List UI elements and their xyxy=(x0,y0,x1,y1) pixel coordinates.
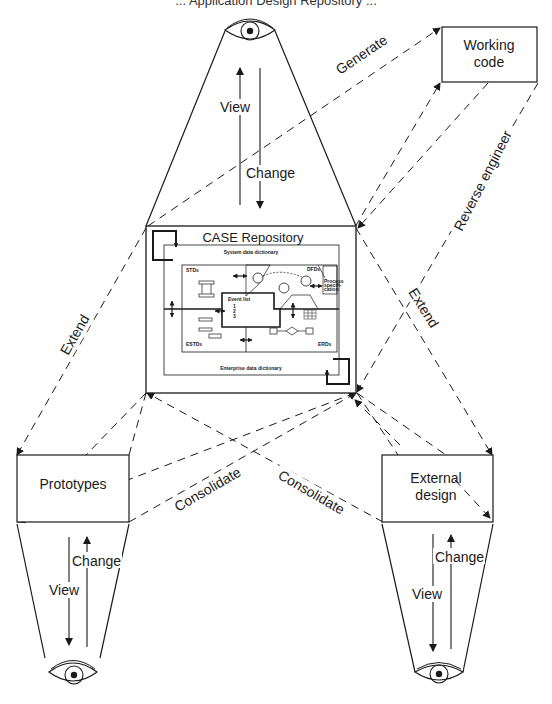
svg-text:Event list: Event list xyxy=(228,296,251,302)
eye-icon xyxy=(49,661,97,685)
svg-text:ERDs: ERDs xyxy=(318,341,332,347)
consolidate-left-label: Consolidate xyxy=(172,464,244,515)
generate-edge xyxy=(148,28,440,226)
svg-text:code: code xyxy=(474,54,505,70)
case-repository-node[interactable]: CASE Repository System data dictionary E… xyxy=(146,226,356,393)
repository-title: CASE Repository xyxy=(202,230,304,245)
system-data-dictionary-label: System data dictionary xyxy=(224,249,279,255)
svg-text:design: design xyxy=(415,487,456,503)
top-view-label: View xyxy=(220,99,251,115)
external-view-label: View xyxy=(412,586,443,602)
generate-edge-2 xyxy=(355,83,440,227)
svg-text:ESTDs: ESTDs xyxy=(186,341,202,347)
extend-left-edge xyxy=(17,228,146,455)
svg-text:STDs: STDs xyxy=(186,267,199,273)
prototypes-change-label: Change xyxy=(72,553,121,569)
prototypes-node[interactable]: Prototypes xyxy=(17,455,129,522)
external-design-node[interactable]: External design xyxy=(382,455,493,522)
svg-text:DFDs: DFDs xyxy=(307,266,320,272)
generate-label: Generate xyxy=(333,31,391,77)
prototypes-view-label: View xyxy=(49,582,80,598)
working-code-node[interactable]: Working code xyxy=(442,27,537,82)
external-change-label: Change xyxy=(435,549,484,565)
reverse-engineer-label: Reverse engineer xyxy=(450,127,515,233)
svg-text:Prototypes: Prototypes xyxy=(40,476,107,492)
repository-diagram: View Change Working code xyxy=(0,0,552,704)
top-viewpoint: View Change xyxy=(146,19,356,226)
eye-icon xyxy=(415,663,463,684)
svg-text:Working: Working xyxy=(463,37,514,53)
eye-icon xyxy=(225,19,275,40)
svg-text:cation: cation xyxy=(324,286,339,292)
svg-text:3: 3 xyxy=(233,313,236,319)
svg-text:External: External xyxy=(410,470,461,486)
enterprise-data-dictionary-label: Enterprise data dictionary xyxy=(220,365,282,371)
top-change-label: Change xyxy=(246,165,295,181)
consolidate-right-label: Consolidate xyxy=(276,467,348,518)
